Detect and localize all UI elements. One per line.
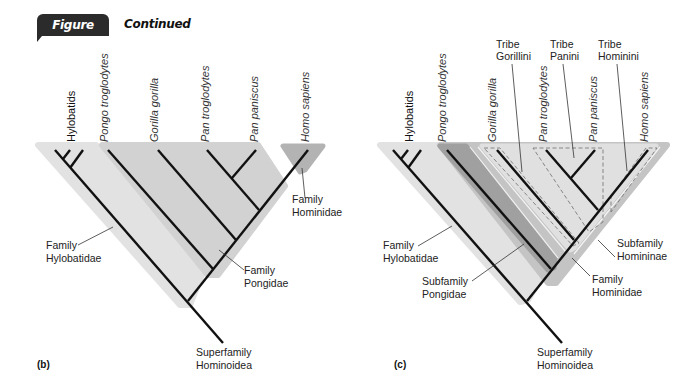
panel-b: Hylobatids Pongo troglodytes Gorilla gor…	[37, 53, 342, 371]
panel-label-c: (c)	[394, 359, 406, 370]
taxon-label: Pan paniscus	[248, 75, 260, 142]
label-subfamily-homininae: SubfamilyHomininae	[617, 237, 667, 262]
taxon-label: Homo sapiens	[299, 71, 311, 142]
taxon-label: Gorilla gorilla	[148, 78, 160, 142]
taxon-label: Hylobatids	[65, 90, 77, 142]
label-superfamily-hominoidea: SuperfamilyHominoidea	[196, 346, 252, 371]
label-family-hominidae: FamilyHominidae	[592, 273, 642, 298]
label-tribe-gorillini: TribeGorillini	[496, 38, 531, 62]
panel-c: Hylobatids Pongo troglodytes Gorilla gor…	[380, 38, 667, 371]
label-superfamily-hominoidea: SuperfamilyHominoidea	[537, 346, 593, 371]
label-tribe-hominini: TribeHominini	[598, 38, 639, 62]
taxon-label: Pongo troglodytes	[436, 53, 448, 142]
taxon-label: Pan troglodytes	[199, 65, 211, 142]
taxon-label: Pongo troglodytes	[98, 53, 110, 142]
taxon-label: Homo sapiens	[638, 71, 650, 142]
cladograms: Hylobatids Pongo troglodytes Gorilla gor…	[0, 0, 699, 386]
label-family-hylobatidae: FamilyHylobatidae	[46, 239, 102, 264]
taxon-label: Pan troglodytes	[537, 65, 549, 142]
taxon-label: Gorilla gorilla	[486, 78, 498, 142]
taxon-label: Pan paniscus	[587, 75, 599, 142]
hominidae-region	[283, 146, 323, 172]
label-family-hylobatidae: FamilyHylobatidae	[383, 239, 439, 264]
panel-label-b: (b)	[37, 359, 50, 370]
label-subfamily-pongidae: SubfamilyPongidae	[422, 275, 469, 300]
label-family-pongidae: FamilyPongidae	[244, 264, 289, 289]
taxon-label: Hylobatids	[403, 90, 415, 142]
label-family-hominidae: FamilyHominidae	[292, 193, 342, 218]
label-tribe-panini: TribePanini	[550, 38, 579, 62]
